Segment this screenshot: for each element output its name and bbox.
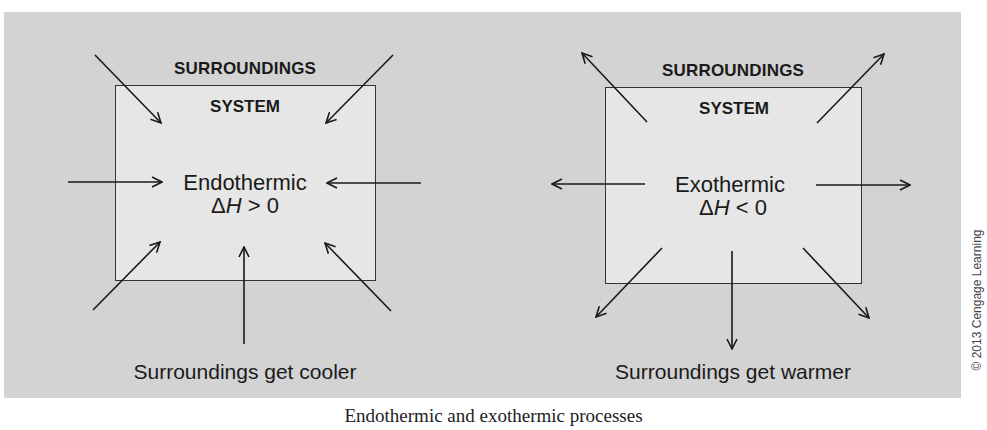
arrow-in-top-left [95,55,161,123]
exothermic-system-label: SYSTEM [674,99,794,119]
exothermic-delta-h: ΔH < 0 [668,196,798,220]
figure-caption: Endothermic and exothermic processes [0,405,987,427]
endothermic-system-label: SYSTEM [185,97,305,117]
endothermic-surroundings-label: SURROUNDINGS [155,59,335,79]
arrow-out-bottom-left [596,248,662,317]
arrow-out-top-right [817,54,884,123]
arrow-out-bottom-right [803,248,869,318]
exothermic-process-label: Exothermic [655,173,805,197]
delta-h-relation: < 0 [730,195,767,220]
endothermic-process-label: Endothermic [165,171,325,195]
endothermic-delta-h: ΔH > 0 [180,194,310,218]
arrow-out-top-left [582,53,647,122]
delta-h-symbol: ΔH [699,195,730,220]
copyright-notice: © 2013 Cengage Learning [970,230,984,371]
arrow-in-top-right [326,55,393,123]
endothermic-bottom-label: Surroundings get cooler [95,360,395,384]
exothermic-surroundings-label: SURROUNDINGS [643,61,823,81]
delta-h-relation: > 0 [242,193,279,218]
arrow-in-bottom-left [93,242,160,310]
delta-h-symbol: ΔH [211,193,242,218]
exothermic-bottom-label: Surroundings get warmer [583,360,883,384]
arrow-in-bottom-right [325,243,391,311]
